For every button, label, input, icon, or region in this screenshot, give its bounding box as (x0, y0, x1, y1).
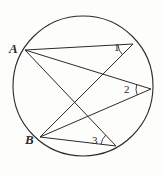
angle-label-1: 1 (114, 42, 120, 53)
chord-b-to-vertex1 (40, 44, 133, 137)
point-label-a: A (9, 42, 18, 55)
chord-b-to-vertex3 (40, 137, 116, 146)
main-circle (13, 16, 153, 156)
angle-label-3: 3 (92, 135, 98, 146)
angle-label-2: 2 (124, 84, 130, 95)
geometry-diagram: A B 1 2 3 (0, 0, 163, 177)
angle-arc-3-icon (101, 135, 106, 144)
geometry-canvas (0, 0, 163, 177)
angle-arc-2-icon (136, 85, 137, 95)
point-label-b: B (25, 133, 34, 146)
chord-b-to-vertex2 (40, 89, 151, 137)
